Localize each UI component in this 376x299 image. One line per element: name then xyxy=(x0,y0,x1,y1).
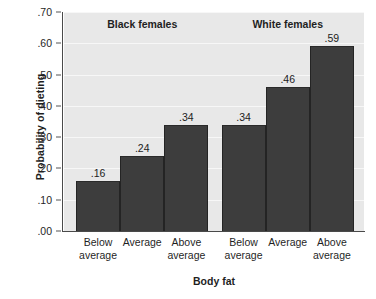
x-axis-line xyxy=(62,231,365,232)
x-axis-tick-label: Aboveaverage xyxy=(310,236,354,261)
bar xyxy=(76,181,120,231)
x-axis-tick-label: Belowaverage xyxy=(76,236,120,261)
y-axis-tick-label: .00 xyxy=(12,225,52,237)
y-axis-tick-mark xyxy=(56,12,61,13)
x-axis-tick-label: Belowaverage xyxy=(222,236,266,261)
y-axis-tick-label: .50 xyxy=(12,69,52,81)
y-axis-tick-mark xyxy=(56,43,61,44)
bar-value-label: .34 xyxy=(164,111,208,123)
group-title: White females xyxy=(222,18,355,30)
y-axis-tick-mark xyxy=(56,137,61,138)
bar-value-label: .46 xyxy=(266,73,310,85)
bar xyxy=(222,125,266,231)
y-axis-tick-label: .60 xyxy=(12,37,52,49)
x-axis-tick-label: Aboveaverage xyxy=(164,236,208,261)
bar xyxy=(120,156,164,231)
plot-area: .16.24.34Black females.34.46.59White fem… xyxy=(64,12,364,231)
y-axis-tick-label: .10 xyxy=(12,194,52,206)
y-axis-tick-label: .20 xyxy=(12,162,52,174)
y-axis-tick-mark xyxy=(56,199,61,200)
gridline xyxy=(64,12,364,13)
bar-chart-figure: Probability of dieting .70.60.50.40.30.2… xyxy=(0,0,376,299)
x-axis-tick-label: Average xyxy=(266,236,310,249)
y-axis-tick-mark xyxy=(56,231,61,232)
group-title: Black females xyxy=(76,18,209,30)
y-axis-tick-label: .40 xyxy=(12,100,52,112)
y-axis-ticks: .70.60.50.40.30.20.10.00 xyxy=(0,0,61,299)
y-axis-tick-mark xyxy=(56,105,61,106)
x-axis-tick-label: Average xyxy=(120,236,164,249)
x-axis-title: Body fat xyxy=(64,275,364,287)
y-axis-tick-label: .70 xyxy=(12,6,52,18)
bar-value-label: .59 xyxy=(310,32,354,44)
y-axis-tick-label: .30 xyxy=(12,131,52,143)
bar xyxy=(266,87,310,231)
y-axis-tick-mark xyxy=(56,74,61,75)
bar-value-label: .16 xyxy=(76,167,120,179)
y-axis-tick-mark xyxy=(56,168,61,169)
x-axis-ticks: BelowaverageAverageAboveaverageBelowaver… xyxy=(64,236,364,270)
bar-value-label: .24 xyxy=(120,142,164,154)
bar xyxy=(310,46,354,231)
bar xyxy=(164,125,208,231)
bar-value-label: .34 xyxy=(222,111,266,123)
